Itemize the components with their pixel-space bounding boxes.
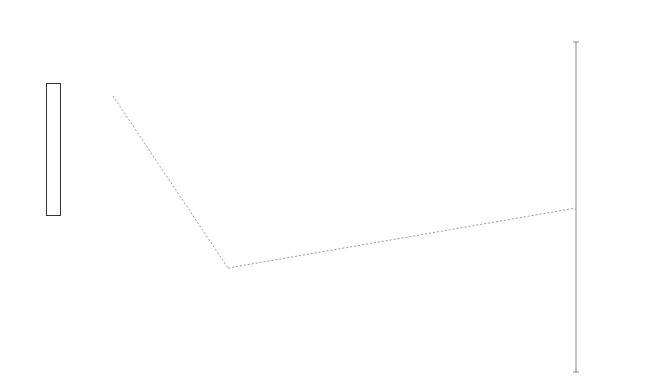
surface-plot bbox=[0, 0, 657, 389]
